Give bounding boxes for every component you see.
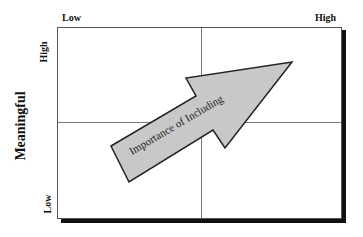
diagram-graphic: Importance of Including: [0, 0, 363, 237]
top-axis-high-label: High: [315, 13, 336, 23]
left-axis-low-label: Low: [43, 195, 53, 214]
left-axis-high-label: High: [39, 41, 49, 62]
quadrant-diagram: Importance of Including Low High High Lo…: [0, 0, 363, 237]
top-axis-low-label: Low: [62, 13, 81, 23]
left-axis-title: Meaningful: [14, 91, 28, 160]
